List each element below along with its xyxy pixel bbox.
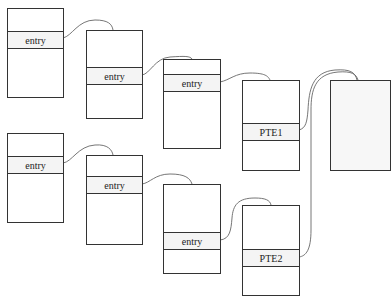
table-level2-a: entry [86, 30, 143, 119]
entry-row: entry [87, 67, 142, 85]
entry-row: entry [164, 232, 220, 250]
table-level4-a: PTE1 [242, 80, 300, 171]
table-level1-a: entry [7, 8, 64, 98]
table-level1-b: entry [7, 133, 64, 223]
entry-label: entry [182, 236, 203, 247]
entry-row: entry [164, 74, 220, 92]
table-level3-a: entry [163, 59, 221, 149]
entry-label: entry [25, 160, 46, 171]
entry-label: entry [182, 78, 203, 89]
entry-label: entry [104, 180, 125, 191]
entry-label: entry [25, 35, 46, 46]
pte-label: PTE1 [260, 127, 283, 138]
table-level3-b: entry [163, 184, 221, 274]
entry-row: entry [8, 31, 63, 49]
pte-row: PTE2 [243, 249, 299, 267]
pte-row: PTE1 [243, 123, 299, 141]
entry-row: entry [8, 156, 63, 174]
table-level4-b: PTE2 [242, 205, 300, 296]
table-level2-b: entry [86, 155, 143, 245]
entry-label: entry [104, 71, 125, 82]
shared-physical-page [330, 80, 391, 171]
pte-label: PTE2 [260, 253, 283, 264]
entry-row: entry [87, 176, 142, 194]
